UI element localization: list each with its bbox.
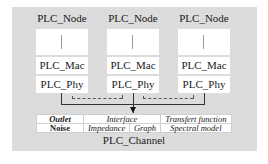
channel-components-table: Outlet Interface Transfert function Nois…: [36, 114, 232, 133]
internal-link-line: [132, 35, 133, 49]
node-application-box: [107, 29, 159, 55]
node-application-box: [178, 29, 230, 55]
phy-layer-box: PLC_Phy: [107, 76, 159, 93]
phy-layer-box: PLC_Phy: [178, 76, 230, 93]
mac-layer-box: PLC_Mac: [178, 57, 230, 74]
table-cell: Impedance: [84, 124, 130, 133]
connector-bus-line: [61, 104, 205, 105]
table-cell: Spectral model: [160, 124, 231, 133]
arrow-down-icon: [130, 107, 136, 113]
mac-layer-box: PLC_Mac: [36, 57, 88, 74]
node-title: PLC_Node: [101, 11, 165, 25]
phy-layer-box: PLC_Phy: [36, 76, 88, 93]
table-row: Noise Impedance Graph Spectral model: [37, 124, 232, 133]
dashed-link-2-3: [143, 98, 193, 99]
node-title: PLC_Node: [172, 11, 236, 25]
internal-link-line: [61, 35, 62, 49]
channel-title: PLC_Channel: [0, 134, 268, 147]
node-application-box: [36, 29, 88, 55]
dashed-link-1-2: [72, 98, 122, 99]
node-title: PLC_Node: [30, 11, 94, 25]
dashed-link-tick: [122, 95, 123, 99]
internal-link-line: [203, 35, 204, 49]
mac-layer-box: PLC_Mac: [107, 57, 159, 74]
dashed-link-tick: [193, 95, 194, 99]
table-cell: Graph: [130, 124, 161, 133]
table-cell: Noise: [37, 124, 84, 133]
